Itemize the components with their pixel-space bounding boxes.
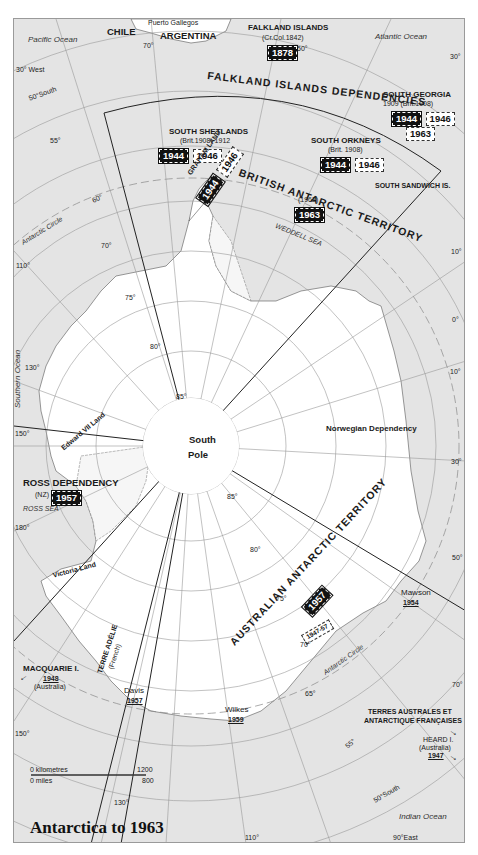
south-georgia-label: SOUTH GEORGIA [383,91,451,99]
macquarie-note: (Australia) [34,683,66,690]
tick-w150: 150° [15,430,29,437]
south-georgia-note: 1909 (Brit.1908) [383,100,433,107]
ross-dependency-year: 1957 [52,488,81,505]
davis-label: Davis [124,687,144,695]
tick-e50: 50° [452,554,463,561]
tick-e10: 10° [450,368,461,375]
scale-km-label: 0 kilometres [30,766,68,773]
scale-km-max: 1200 [137,766,153,773]
map-title: Antarctica to 1963 [30,818,164,838]
falkland-islands-year: 1878 [268,43,297,60]
wilkes-label: Wilkes [225,706,249,714]
taaf-label-2: ANTARCTIQUE FRANÇAISES [364,717,462,724]
south-shetlands-years: 1944 1946 [159,146,222,163]
argentina-label: ARGENTINA [160,31,216,41]
mawson-label: Mawson [401,589,431,597]
british-antarctic-year: 1963 [295,205,324,222]
tick-e70: 70° [452,681,463,688]
ross-sea-label: ROSS SEA [23,505,59,512]
south-shetlands-label: SOUTH SHETLANDS [169,128,248,136]
wilkes-year: 1959 [228,716,244,723]
scale-mi-label: 0 miles [30,777,52,784]
south-orkneys-years: 1944 1946 [321,155,384,172]
falkland-islands-note: (Cr.Col.1842) [262,34,304,41]
southern-ocean-label: Southern Ocean [14,350,22,408]
pacific-ocean-label: Pacific Ocean [28,36,77,44]
tick-90-east: 90°East [393,834,418,841]
norwegian-dependency-label: Norwegian Dependency [326,425,417,433]
tick-w130: 130° [25,364,39,371]
south-orkneys-label: SOUTH ORKNEYS [311,137,381,145]
tick-w180: 180° [15,524,29,531]
tick-75-bottom: 75° [276,595,287,602]
tick-65-bottom: 65° [305,690,316,697]
tick-w50: 50° [297,45,308,52]
tick-80: 80° [150,343,161,350]
south-georgia-1963: 1963 [406,124,435,141]
heard-year: 1947 [428,752,444,759]
tick-75: 75° [125,294,136,301]
tick-e10-top: 10° [451,248,462,255]
tick-e110: 110° [245,834,259,841]
tick-w110: 110° [16,262,30,269]
tick-85-top: 85° [176,393,187,400]
tick-zero: 0° [452,316,459,323]
tick-30-west: 30° West [16,66,44,73]
south-sandwich-label: SOUTH SANDWICH IS. [375,182,450,189]
south-pole-label-1: South [189,435,216,445]
heard-label: HEARD I. [423,736,453,743]
tick-e30-top: 30° [450,53,461,60]
tick-85-bottom: 85° [227,493,238,500]
south-orkneys-note: (Brit. 1908) [328,146,363,153]
macquarie-label: MACQUARIE I. [23,665,79,673]
ross-dependency-label: ROSS DEPENDENCY [23,478,119,488]
chile-label: CHILE [107,27,136,37]
taaf-label-1: TERRES AUSTRALES ET [368,708,452,715]
british-antarctic-note: (1962) [298,196,318,203]
falkland-islands-label: FALKLAND ISLANDS [248,24,328,32]
south-pole-disc [143,398,239,494]
tick-80-bottom: 80° [250,546,261,553]
atlantic-ocean-label: Atlantic Ocean [375,33,427,41]
scale-mi-max: 800 [142,777,154,784]
macquarie-year: 1948 [43,675,59,682]
ross-dependency-note: (NZ) [35,491,49,498]
tick-70: 70° [101,242,112,249]
davis-year: 1957 [127,697,143,704]
tick-70-bottom: 70° [300,641,311,648]
indian-ocean-label: Indian Ocean [399,813,447,821]
heard-note: (Australia) [419,744,451,751]
tick-w70: 70° [143,42,154,49]
puerto-gallegos-label: Puerto Gallegos [148,19,198,26]
tick-55: 55° [50,137,61,144]
tick-e30: 30° [451,458,462,465]
mawson-year: 1954 [403,599,419,606]
tick-e150: 150° [15,730,29,737]
south-pole-label-2: Pole [188,450,208,460]
tick-e130: 130° [114,799,128,806]
